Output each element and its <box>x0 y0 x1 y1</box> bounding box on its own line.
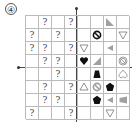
question-mark: ? <box>30 43 35 53</box>
grid-cell: ? <box>26 42 39 55</box>
black-trapezoid-icon <box>92 69 102 79</box>
white-inverted-heart-icon <box>118 69 128 79</box>
grid-cell <box>104 107 117 120</box>
white-down-triangle-icon <box>118 30 128 40</box>
grid-cell <box>117 81 130 94</box>
grid-cell <box>78 107 91 120</box>
grid-cell: ? <box>52 55 65 68</box>
question-mark: ? <box>69 17 74 27</box>
question-mark: ? <box>56 56 61 66</box>
grid-cell <box>104 81 117 94</box>
question-mark: ? <box>43 43 48 53</box>
grid-cell <box>39 107 52 120</box>
white-up-triangle-icon <box>79 82 89 92</box>
grid-cell <box>117 29 130 42</box>
grid-cell <box>91 68 104 81</box>
grid-cell <box>65 94 78 107</box>
grid-cell: ? <box>52 68 65 81</box>
question-mark: ? <box>56 95 61 105</box>
grid-cell <box>104 68 117 81</box>
grid-cell <box>91 16 104 29</box>
horizontal-axis-end-dot <box>17 66 20 69</box>
grid-cell <box>78 42 91 55</box>
gray-left-triangle-icon <box>105 95 115 105</box>
figure-number-label: ④ <box>5 3 17 15</box>
black-heart-icon <box>79 56 89 66</box>
grid-cell <box>91 81 104 94</box>
vertical-axis-end-dot <box>75 7 78 10</box>
grid-cell <box>26 16 39 29</box>
gray-triangle-icon <box>92 56 102 66</box>
grid-cell: ? <box>65 107 78 120</box>
grid-cell <box>26 94 39 107</box>
grid-cell <box>104 42 117 55</box>
grid-cell <box>104 16 117 29</box>
grid-cell <box>117 68 130 81</box>
grid-cell: ? <box>39 55 52 68</box>
gray-triangle-icon <box>105 17 115 27</box>
grid-cell <box>39 68 52 81</box>
grid-cell: ? <box>65 16 78 29</box>
grid-cell <box>78 68 91 81</box>
question-mark: ? <box>43 95 48 105</box>
gray-left-triangle-icon <box>105 43 115 53</box>
grid-cell: ? <box>65 42 78 55</box>
grid-cell: ? <box>39 94 52 107</box>
puzzle-grid: ???????????????? <box>25 15 129 119</box>
question-mark: ? <box>43 17 48 27</box>
question-mark: ? <box>56 30 61 40</box>
question-mark: ? <box>43 82 48 92</box>
gray-no-sign-icon <box>92 82 102 92</box>
grid-cell <box>117 42 130 55</box>
grid-cell: ? <box>39 42 52 55</box>
gray-trapezoid-icon <box>118 95 128 105</box>
question-mark: ? <box>69 82 74 92</box>
question-mark: ? <box>56 69 61 79</box>
white-no-sign-icon <box>118 56 128 66</box>
grid-cell <box>91 107 104 120</box>
black-pentagon-icon <box>105 82 115 92</box>
grid-cell <box>78 94 91 107</box>
grid-cell <box>104 94 117 107</box>
grid-cell <box>78 16 91 29</box>
grid-cell <box>78 55 91 68</box>
grid-cell: ? <box>26 107 39 120</box>
grid-cell: ? <box>26 29 39 42</box>
grid-cell <box>26 81 39 94</box>
grid-cell <box>26 68 39 81</box>
grid-cell: ? <box>52 29 65 42</box>
grid-cell <box>65 29 78 42</box>
grid-cell <box>117 16 130 29</box>
grid-cell <box>65 68 78 81</box>
grid-cell <box>52 107 65 120</box>
grid-cell: ? <box>39 81 52 94</box>
grid-cell <box>78 81 91 94</box>
grid-cell <box>91 29 104 42</box>
question-mark: ? <box>30 108 35 118</box>
grid-cell <box>117 94 130 107</box>
white-down-triangle-icon <box>105 108 115 118</box>
grid-cell <box>78 29 91 42</box>
grid-cell <box>52 16 65 29</box>
grid-cell <box>52 42 65 55</box>
grid-cell <box>117 55 130 68</box>
black-pentagon-icon <box>92 95 102 105</box>
grid-cell <box>117 107 130 120</box>
grid-cell <box>39 29 52 42</box>
grid-cell <box>65 55 78 68</box>
question-mark: ? <box>30 30 35 40</box>
grid-cell: ? <box>39 16 52 29</box>
grid-cell <box>104 29 117 42</box>
question-mark: ? <box>69 43 74 53</box>
grid-cell <box>91 94 104 107</box>
grid-cell <box>91 55 104 68</box>
grid-cell <box>91 42 104 55</box>
grid-cell: ? <box>65 81 78 94</box>
grid-cell: ? <box>52 94 65 107</box>
grid-cell <box>52 81 65 94</box>
grid-cell <box>104 55 117 68</box>
question-mark: ? <box>43 56 48 66</box>
question-mark: ? <box>69 108 74 118</box>
black-no-sign-icon <box>92 30 102 40</box>
grid-cell <box>26 55 39 68</box>
